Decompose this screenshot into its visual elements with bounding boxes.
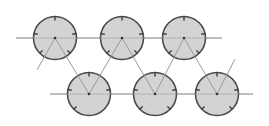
center-dot bbox=[216, 93, 219, 96]
circle-lattice-diagram bbox=[0, 0, 269, 126]
tick-mark bbox=[101, 34, 105, 35]
tick-mark bbox=[172, 90, 176, 91]
tick-mark bbox=[72, 34, 76, 35]
tick-mark bbox=[134, 90, 138, 91]
tick-mark bbox=[34, 34, 38, 35]
tick-mark bbox=[201, 34, 205, 35]
tick-mark bbox=[68, 90, 72, 91]
center-dot bbox=[54, 37, 57, 40]
center-dot bbox=[121, 37, 124, 40]
tick-mark bbox=[196, 90, 200, 91]
center-dot bbox=[183, 37, 186, 40]
diagram-canvas bbox=[0, 0, 269, 126]
tick-mark bbox=[163, 34, 167, 35]
tick-mark bbox=[106, 90, 110, 91]
tick-mark bbox=[234, 90, 238, 91]
center-dot bbox=[88, 93, 91, 96]
center-dot bbox=[154, 93, 157, 96]
tick-mark bbox=[139, 34, 143, 35]
